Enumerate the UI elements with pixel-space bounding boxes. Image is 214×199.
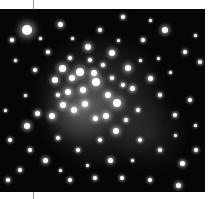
star: [58, 22, 63, 27]
star: [6, 178, 10, 182]
star: [131, 159, 134, 162]
star: [82, 101, 88, 107]
star: [43, 158, 48, 163]
star: [125, 65, 131, 71]
star: [60, 102, 66, 108]
star: [109, 50, 115, 56]
star: [194, 34, 197, 37]
star: [101, 63, 105, 67]
star: [8, 138, 12, 142]
star: [56, 136, 60, 140]
star: [24, 123, 30, 129]
star: [174, 134, 177, 137]
star: [183, 50, 187, 54]
star: [68, 178, 72, 182]
star: [86, 164, 89, 167]
star: [117, 39, 120, 42]
star: [169, 71, 172, 74]
star: [59, 65, 66, 72]
star: [76, 148, 80, 152]
star: [93, 116, 98, 121]
star: [10, 38, 14, 42]
star: [158, 93, 162, 97]
star: [91, 70, 97, 76]
star: [35, 111, 40, 116]
star: [176, 183, 181, 188]
star: [39, 37, 42, 40]
star: [33, 68, 37, 72]
star: [68, 56, 72, 60]
star: [149, 19, 152, 22]
star: [46, 50, 50, 54]
star: [71, 107, 77, 113]
star: [105, 92, 111, 98]
star: [121, 15, 125, 19]
star: [49, 113, 55, 119]
star: [18, 168, 22, 172]
star-cluster-photo: [0, 9, 205, 192]
star: [124, 118, 128, 122]
star: [103, 113, 109, 119]
star: [14, 59, 17, 62]
star: [108, 158, 113, 163]
star: [138, 138, 142, 142]
star: [180, 161, 185, 166]
star: [188, 98, 192, 102]
star: [80, 87, 86, 93]
star: [4, 109, 7, 112]
star: [148, 178, 152, 182]
star: [120, 176, 124, 180]
star: [24, 94, 27, 97]
star: [162, 27, 168, 33]
star: [69, 75, 75, 81]
star: [141, 38, 145, 42]
star: [148, 76, 153, 81]
star: [92, 78, 100, 86]
star: [173, 113, 177, 117]
star: [22, 25, 32, 35]
star: [194, 148, 198, 152]
star: [71, 37, 74, 40]
star: [158, 148, 162, 152]
star: [65, 89, 71, 95]
star: [98, 28, 102, 32]
star: [93, 176, 97, 180]
star: [76, 68, 84, 76]
star: [113, 99, 121, 107]
star: [56, 93, 60, 97]
nebula-glow: [110, 94, 190, 174]
star: [130, 86, 135, 91]
bottom-tick-mark: [33, 192, 34, 199]
star: [157, 57, 160, 60]
star: [113, 128, 119, 134]
top-tick-mark: [33, 0, 34, 9]
star: [28, 148, 32, 152]
star: [52, 77, 58, 83]
star: [139, 59, 142, 62]
star: [194, 124, 197, 127]
star: [136, 108, 140, 112]
star: [59, 169, 62, 172]
star: [88, 58, 92, 62]
star: [85, 44, 91, 50]
star: [121, 83, 125, 87]
star: [110, 76, 114, 80]
star: [98, 138, 102, 142]
star: [198, 60, 202, 64]
